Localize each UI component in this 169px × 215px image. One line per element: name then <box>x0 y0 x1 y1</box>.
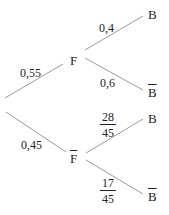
prob-Fbar-B: 28 45 <box>100 111 116 139</box>
prob-F-bar: 0,45 <box>21 139 42 151</box>
edge-F-B <box>85 16 143 50</box>
prob-Fbar-B-denominator: 45 <box>100 125 116 139</box>
prob-Fbar-B-bar-denominator: 45 <box>100 191 116 205</box>
prob-F: 0,55 <box>20 67 41 79</box>
prob-F-B-bar: 0,6 <box>100 77 115 89</box>
node-F-bar: F <box>70 152 77 165</box>
node-Fbar-B-bar: B <box>148 190 157 203</box>
prob-F-B: 0,4 <box>99 22 114 34</box>
node-F-B-bar: B <box>148 86 157 99</box>
prob-Fbar-B-bar: 17 45 <box>100 177 116 205</box>
prob-Fbar-B-numerator: 28 <box>100 111 116 125</box>
node-F-B: B <box>148 8 157 21</box>
prob-Fbar-B-bar-numerator: 17 <box>100 177 116 191</box>
tree-edges <box>0 0 169 215</box>
node-Fbar-B: B <box>148 112 157 125</box>
node-F: F <box>70 54 77 67</box>
